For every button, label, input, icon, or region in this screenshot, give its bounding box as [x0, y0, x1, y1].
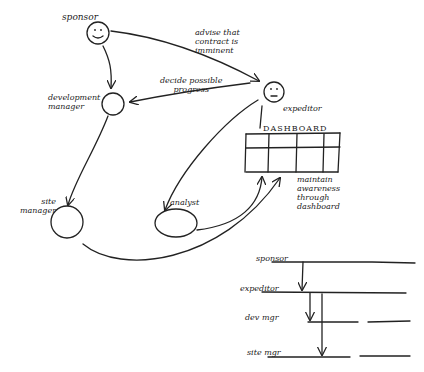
edge-sponsor-devmgr [103, 46, 111, 88]
sponsor-face-icon [87, 22, 109, 44]
site-manager-label: site manager [20, 197, 56, 215]
edge-label-advise: advise that contract is imminent [195, 28, 240, 55]
expeditor-face-icon [260, 82, 284, 128]
dashboard-note: maintain awareness through dashboard [297, 175, 340, 211]
edge-devmgr-sitemgr [68, 116, 108, 205]
edge-analyst-dashboard [197, 177, 262, 230]
edge-expeditor-analyst [165, 100, 258, 210]
analyst-label: analyst [170, 198, 199, 207]
swimlane-diagram [262, 262, 415, 357]
analyst-node [155, 209, 197, 237]
lane-label-sponsor: sponsor [256, 254, 288, 263]
edge-sitemgr-dashboard [83, 178, 280, 260]
sponsor-label: sponsor [62, 12, 98, 22]
development-manager-node [102, 93, 124, 115]
edge-label-decide: decide possible progress [160, 76, 222, 94]
sketch-canvas [0, 0, 424, 372]
lane-label-dev-mgr: dev mgr [245, 313, 278, 322]
lane-label-site-mgr: site mgr [247, 348, 281, 357]
development-manager-label: development manager [48, 93, 100, 111]
expeditor-label: expeditor [283, 104, 322, 113]
dashboard-table [245, 133, 340, 172]
lane-label-expeditor: expeditor [240, 284, 279, 293]
dashboard-title: DASHBOARD [263, 124, 327, 134]
